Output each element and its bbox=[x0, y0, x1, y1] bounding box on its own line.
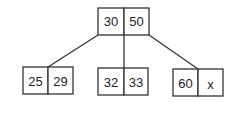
edge-root-to-left bbox=[48, 35, 98, 67]
root-key-1: 30 bbox=[104, 14, 118, 29]
middle-child-node: 32 33 bbox=[98, 68, 148, 95]
left-key-1: 25 bbox=[28, 74, 42, 89]
right-child-node: 60 x bbox=[173, 69, 223, 96]
root-key-2: 50 bbox=[129, 14, 143, 29]
b-tree-diagram: 30 50 25 29 32 33 60 x bbox=[0, 0, 238, 132]
middle-key-1: 32 bbox=[104, 75, 118, 90]
right-key-1: 60 bbox=[178, 76, 192, 91]
edge-root-to-right bbox=[149, 35, 198, 69]
left-key-2: 29 bbox=[53, 74, 67, 89]
right-key-2: x bbox=[207, 77, 214, 92]
root-node: 30 50 bbox=[98, 8, 149, 35]
middle-key-2: 33 bbox=[129, 75, 143, 90]
left-child-node: 25 29 bbox=[23, 67, 73, 94]
